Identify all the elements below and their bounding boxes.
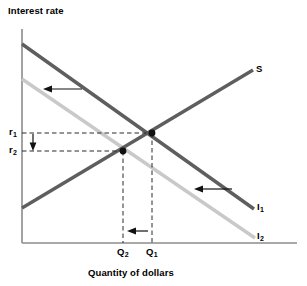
investment-demand-chart: Interest rate Quantity of dollars r1 r2 … [0, 0, 307, 286]
x-tick-q1-base: Q [146, 246, 153, 257]
curve-label-demand-1-subscript: 1 [260, 206, 264, 213]
curve-supply [22, 70, 253, 208]
interest-rate-fall-arrow-icon [30, 134, 37, 151]
curve-demand-1 [22, 44, 254, 209]
x-tick-q2-subscript: 2 [125, 251, 129, 258]
y-axis-title: Interest rate [8, 6, 64, 16]
y-tick-label-r1: r1 [9, 127, 17, 137]
curve-label-supply: S [256, 64, 262, 74]
x-tick-label-q2: Q2 [117, 247, 128, 257]
x-axis-title: Quantity of dollars [88, 268, 174, 278]
curve-label-demand-2: I2 [257, 231, 264, 241]
equilibrium-point-2 [120, 148, 127, 155]
x-tick-label-q1: Q1 [146, 247, 157, 257]
y-tick-r2-subscript: 2 [13, 149, 17, 156]
x-tick-q2-base: Q [117, 246, 124, 257]
demand-shift-arrow-lower-icon [194, 186, 232, 193]
demand-shift-arrow-upper-icon [43, 86, 82, 93]
chart-canvas [0, 0, 307, 286]
y-tick-label-r2: r2 [9, 145, 17, 155]
curve-label-demand-1: I1 [257, 202, 264, 212]
curve-demand-2 [22, 79, 255, 238]
x-tick-q1-subscript: 1 [154, 251, 158, 258]
y-tick-r1-subscript: 1 [13, 131, 17, 138]
quantity-fall-arrow-icon [127, 228, 148, 235]
curve-label-demand-2-subscript: 2 [260, 235, 264, 242]
equilibrium-point-1 [149, 130, 156, 137]
